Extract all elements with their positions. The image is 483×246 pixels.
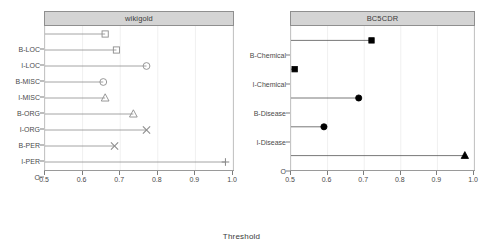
panel-strip-wikigold: wikigold	[44, 11, 234, 26]
x-axis-tick-label: 0.6	[322, 176, 332, 183]
data-point-marker-circle	[321, 124, 327, 130]
data-point-marker-circle	[356, 95, 362, 101]
x-axis-tick	[44, 171, 45, 175]
data-point-marker-plus	[222, 158, 230, 166]
panel-bc5cdr: BC5CDR B-ChemicalI-ChemicalB-DiseaseI-Di…	[246, 11, 475, 193]
y-axis-label: I-MISC	[18, 94, 40, 101]
x-axis-tick	[119, 171, 120, 175]
panel-wikigold: wikigold B-LOCI-LOCB-MISCI-MISCB-ORGI-OR…	[8, 11, 234, 193]
y-axis-label: B-Chemical	[250, 52, 286, 59]
plot-area-wikigold	[44, 26, 234, 171]
x-axis-tick-label: 0.7	[358, 176, 368, 183]
x-axis-tick-label: 1.0	[227, 176, 237, 183]
panel-title-wikigold: wikigold	[125, 15, 153, 23]
y-axis-label: I-Disease	[256, 138, 286, 145]
y-axis-labels-wikigold: B-LOCI-LOCB-MISCI-MISCB-ORGI-ORGB-PERI-P…	[8, 26, 44, 171]
y-axis-label: B-ORG	[17, 110, 40, 117]
data-point-marker-square	[369, 38, 374, 43]
y-axis-label: B-LOC	[19, 46, 40, 53]
x-axis-tick	[157, 171, 158, 175]
x-axis-tick-label: 0.5	[285, 176, 295, 183]
x-axis-tick	[194, 171, 195, 175]
plot-area-bc5cdr	[290, 26, 475, 171]
x-axis-tick	[363, 171, 364, 175]
chart-figure: wikigold B-LOCI-LOCB-MISCI-MISCB-ORGI-OR…	[0, 0, 483, 246]
y-axis-label: I-ORG	[20, 126, 40, 133]
x-axis-wikigold: 0.50.60.70.80.91.0	[44, 171, 234, 193]
y-axis-label: I-PER	[21, 158, 40, 165]
x-axis-tick	[400, 171, 401, 175]
x-axis-tick	[290, 171, 291, 175]
x-axis-tick	[232, 171, 233, 175]
x-axis-tick-label: 0.8	[152, 176, 162, 183]
y-axis-label: I-Chemical	[253, 81, 286, 88]
x-axis-tick-label: 0.9	[432, 176, 442, 183]
plot-svg-wikigold	[45, 26, 233, 170]
data-point-marker-triangle	[129, 110, 137, 117]
x-axis-title: Threshold	[0, 232, 483, 241]
x-axis-tick-label: 0.5	[39, 176, 49, 183]
y-axis-label: B-Disease	[254, 110, 286, 117]
panel-title-bc5cdr: BC5CDR	[367, 15, 399, 23]
x-axis-tick	[82, 171, 83, 175]
x-axis-tick	[327, 171, 328, 175]
x-axis-tick-label: 0.9	[190, 176, 200, 183]
y-axis-labels-bc5cdr: B-ChemicalI-ChemicalB-DiseaseI-DiseaseO	[246, 26, 290, 171]
plot-svg-bc5cdr	[291, 26, 474, 170]
x-axis-tick-label: 0.8	[395, 176, 405, 183]
x-axis-tick-label: 1.0	[468, 176, 478, 183]
y-axis-label: I-LOC	[21, 62, 40, 69]
panel-strip-bc5cdr: BC5CDR	[290, 11, 475, 26]
y-axis-label: B-MISC	[16, 78, 41, 85]
data-point-marker-triangle	[101, 94, 109, 101]
x-axis-tick	[473, 171, 474, 175]
y-axis-label: B-PER	[19, 142, 40, 149]
x-axis-tick-label: 0.7	[114, 176, 124, 183]
x-axis-tick-label: 0.6	[77, 176, 87, 183]
x-axis-tick	[436, 171, 437, 175]
x-axis-bc5cdr: 0.50.60.70.80.91.0	[290, 171, 475, 193]
data-point-marker-triangle	[461, 152, 468, 159]
data-point-marker-square	[292, 67, 297, 72]
